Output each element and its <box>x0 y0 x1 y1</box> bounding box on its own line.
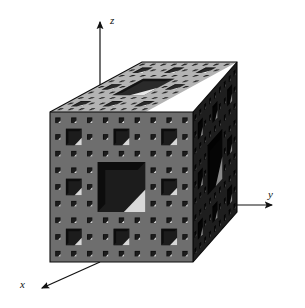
menger-sponge-figure: z y x <box>0 0 305 308</box>
front-face <box>50 112 193 262</box>
figure-canvas: z y x <box>0 0 305 308</box>
y-axis-label: y <box>267 188 273 200</box>
z-axis-label: z <box>109 14 115 26</box>
x-axis-label: x <box>19 278 25 290</box>
